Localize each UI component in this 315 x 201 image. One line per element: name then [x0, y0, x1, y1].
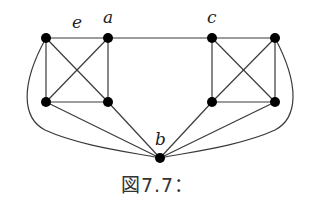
label-e: e: [72, 12, 82, 32]
vertex: [41, 97, 51, 107]
label-c: c: [207, 7, 217, 27]
figure-caption: 図7.7：: [0, 170, 315, 197]
vertex-a: [103, 33, 113, 43]
vertex-b: [155, 153, 165, 163]
edge: [46, 102, 160, 158]
vertex: [103, 97, 113, 107]
vertex: [41, 33, 51, 43]
vertex: [207, 97, 217, 107]
vertex: [270, 97, 280, 107]
vertex: [270, 33, 280, 43]
edge: [160, 102, 275, 158]
label-a: a: [103, 7, 113, 27]
label-b: b: [155, 129, 166, 149]
vertex-c: [207, 33, 217, 43]
